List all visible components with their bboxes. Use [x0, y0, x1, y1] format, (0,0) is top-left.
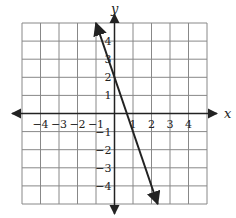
x-tick-label: 3: [167, 118, 174, 131]
y-tick-label: 4: [105, 35, 112, 48]
x-axis-label: x: [224, 106, 232, 121]
coordinate-plane: −4−3−2−11234−4−3−2−11234 x y: [0, 0, 236, 218]
y-axis-label: y: [110, 1, 119, 16]
y-tick-label: −4: [95, 180, 111, 193]
y-tick-label: 2: [105, 71, 112, 84]
x-tick-label: 4: [185, 118, 192, 131]
y-tick-label: −1: [95, 126, 111, 139]
x-tick-label: −3: [51, 118, 67, 131]
y-tick-label: 1: [105, 89, 112, 102]
x-tick-label: −4: [32, 118, 48, 131]
x-tick-label: −2: [69, 118, 85, 131]
x-tick-label: 2: [148, 118, 155, 131]
y-tick-label: −3: [95, 162, 111, 175]
y-tick-label: −2: [95, 144, 111, 157]
axes: [12, 14, 217, 214]
